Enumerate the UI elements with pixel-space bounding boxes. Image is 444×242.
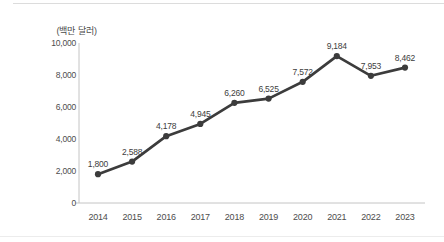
y-axis-unit-label: (백만 달러) [37,24,97,36]
data-point-value-label: 2,588 [112,147,152,158]
chart-panel: (백만 달러) 02,0004,0006,0008,00010,00020142… [0,0,444,242]
y-tick-label: 2,000 [36,166,76,177]
line-chart: (백만 달러) 02,0004,0006,0008,00010,00020142… [0,0,444,242]
y-tick-label: 10,000 [36,38,76,49]
data-point-marker [368,73,374,79]
y-tick-label: 4,000 [36,134,76,145]
data-point-marker [300,79,306,85]
data-point-value-label: 4,945 [180,109,220,120]
x-tick-label: 2017 [183,212,217,223]
data-point-value-label: 1,800 [78,159,118,170]
data-point-marker [402,65,408,71]
x-tick-label: 2023 [388,212,422,223]
data-point-marker [197,121,203,127]
data-point-value-label: 8,462 [385,53,425,64]
x-tick-label: 2021 [320,212,354,223]
y-tick-label: 6,000 [36,102,76,113]
data-point-value-label: 6,525 [249,84,289,95]
x-tick-label: 2014 [81,212,115,223]
y-tick-label: 8,000 [36,70,76,81]
x-tick-label: 2016 [149,212,183,223]
x-tick-label: 2015 [115,212,149,223]
data-point-marker [163,133,169,139]
data-point-marker [231,100,237,106]
x-tick-label: 2022 [354,212,388,223]
x-tick-label: 2018 [217,212,251,223]
data-point-marker [266,96,272,102]
x-tick-label: 2020 [286,212,320,223]
data-point-value-label: 9,184 [317,41,357,52]
x-tick-label: 2019 [252,212,286,223]
data-point-marker [129,159,135,165]
y-tick-label: 0 [36,198,76,209]
data-point-marker [334,53,340,59]
data-point-value-label: 4,178 [146,121,186,132]
data-point-value-label: 7,572 [283,67,323,78]
data-point-marker [95,171,101,177]
